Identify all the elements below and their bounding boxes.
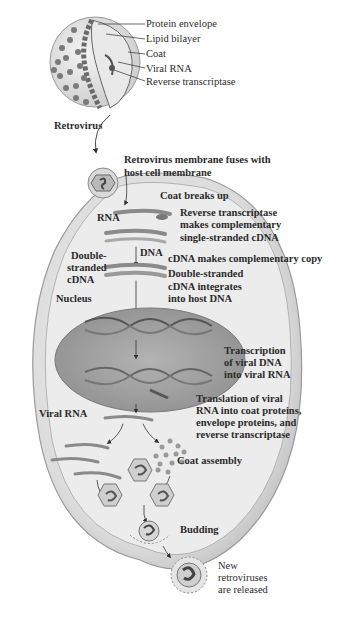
label-tl-4: reverse transcriptase — [196, 429, 290, 441]
label-new-3: are released — [218, 584, 268, 596]
label-tl-3: envelope proteins, and — [196, 417, 296, 429]
label-fuses-2: host cell membrane — [124, 167, 211, 179]
label-tl-1: Translation of viral — [196, 393, 283, 405]
label-rt-1: Reverse transcriptase — [180, 207, 277, 219]
label-integ-1: Double-stranded — [168, 268, 243, 280]
label-budding: Budding — [180, 524, 219, 536]
label-integ-2: cDNA integrates — [168, 281, 242, 293]
label-rt-3: single-stranded cDNA — [180, 232, 279, 244]
released-retrovirus — [171, 557, 207, 593]
diagram-artwork — [0, 0, 344, 618]
label-tx-2: of viral DNA — [224, 357, 282, 369]
label-integ-3: into host DNA — [168, 293, 232, 305]
label-ds-1: Double- — [71, 250, 107, 262]
label-reverse-transcriptase-part: Reverse transcriptase — [146, 76, 236, 88]
label-protein-envelope: Protein envelope — [146, 18, 217, 30]
label-tx-3: into viral RNA — [224, 369, 291, 381]
label-dna: DNA — [140, 247, 163, 259]
label-ds-2: stranded — [67, 262, 107, 274]
label-lipid-bilayer: Lipid bilayer — [146, 33, 201, 45]
label-tl-2: RNA into coat proteins, — [196, 405, 301, 417]
label-new-2: retroviruses — [218, 572, 268, 584]
label-viral-rna: Viral RNA — [39, 408, 87, 420]
label-tx-1: Transcription — [224, 345, 286, 357]
label-coat-breaks: Coat breaks up — [160, 190, 229, 202]
label-fuses-1: Retrovirus membrane fuses with — [124, 154, 271, 166]
label-ds-3: cDNA — [67, 274, 94, 286]
label-cdna-copy: cDNA makes complementary copy — [168, 253, 322, 265]
label-nucleus: Nucleus — [56, 293, 92, 305]
label-rt-2: makes complementary — [180, 219, 281, 231]
label-rna: RNA — [97, 212, 120, 224]
label-coat: Coat — [146, 48, 166, 60]
label-new-1: New — [218, 560, 238, 572]
label-viral-rna-part: Viral RNA — [146, 63, 192, 75]
label-retrovirus: Retrovirus — [54, 120, 102, 132]
label-coat-assembly: Coat assembly — [177, 455, 242, 467]
